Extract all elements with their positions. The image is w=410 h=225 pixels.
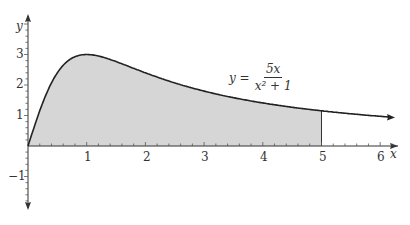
y-axis-label: y (16, 20, 23, 32)
equation-lhs: y = (229, 71, 250, 85)
y-tick-neg1: −1 (8, 170, 26, 182)
curve-arrow-icon (387, 114, 395, 121)
x-tick-1: 1 (84, 151, 92, 163)
x-tick-5: 5 (319, 151, 327, 163)
y-tick-3: 3 (16, 48, 24, 60)
equation-denominator: x² + 1 (255, 78, 292, 93)
y-axis-down-arrow-icon (25, 202, 31, 210)
x-tick-3: 3 (201, 151, 209, 163)
equation-numerator: 5x (264, 62, 282, 78)
chart-canvas (0, 0, 410, 225)
x-tick-6: 6 (377, 151, 385, 163)
y-axis-up-arrow-icon (25, 14, 31, 22)
x-tick-2: 2 (143, 151, 151, 163)
equation-annotation: y = 5x x² + 1 (229, 62, 292, 93)
x-tick-4: 4 (260, 151, 268, 163)
x-axis-label: x (390, 148, 397, 160)
y-tick-1: 1 (16, 109, 24, 121)
y-tick-2: 2 (16, 78, 24, 90)
